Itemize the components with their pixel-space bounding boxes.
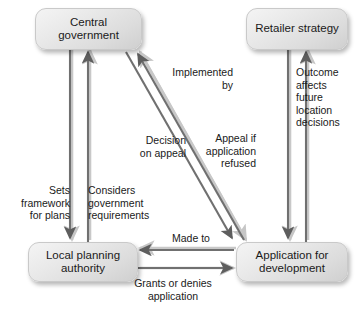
- node-central-government[interactable]: Central government: [35, 8, 142, 50]
- edge-label-grants-or-denies: Grants or denies application: [118, 277, 228, 302]
- diagram-canvas: Central government Retailer strategy Loc…: [0, 0, 361, 312]
- edge-label-sets-framework: Sets framework for plans: [8, 184, 70, 222]
- edge-label-implemented-by: Implemented by: [143, 66, 233, 91]
- node-application-for-development[interactable]: Application for development: [236, 242, 348, 282]
- node-local-planning-authority[interactable]: Local planning authority: [28, 242, 138, 282]
- edge-label-considers-requirements: Considers government requirements: [88, 184, 162, 222]
- node-application-for-development-label: Application for development: [237, 249, 347, 276]
- node-retailer-strategy[interactable]: Retailer strategy: [246, 8, 348, 50]
- node-local-planning-authority-label: Local planning authority: [29, 249, 137, 276]
- edge-label-appeal-if-refused: Appeal if application refused: [192, 132, 256, 170]
- edge-label-made-to: Made to: [160, 232, 222, 245]
- node-retailer-strategy-label: Retailer strategy: [251, 22, 343, 36]
- edge-label-outcome-affects: Outcome affects future location decision…: [296, 66, 358, 129]
- node-central-government-label: Central government: [36, 16, 141, 43]
- edge-label-decision-on-appeal: Decision on appeal: [120, 134, 186, 159]
